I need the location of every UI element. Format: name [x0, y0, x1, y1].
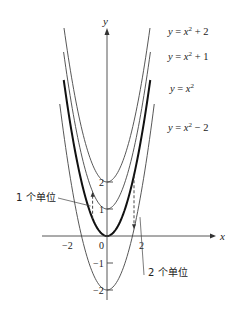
x-axis-arrow-icon — [210, 234, 216, 239]
series-label-3: y = x2 − 2 — [167, 121, 208, 133]
x-tick-label: 0 — [99, 240, 104, 251]
y-axis-label: y — [102, 15, 108, 27]
y-tick-label: −1 — [93, 258, 104, 269]
y-tick-label: 2 — [99, 177, 104, 188]
annotation-label: 2 个单位 — [148, 266, 188, 278]
x-tick-label: −2 — [62, 240, 73, 251]
series-labels: y = x2 + 2y = x2 + 1y = x2y = x2 − 2 — [167, 25, 208, 133]
y-axis-arrow-icon — [105, 28, 110, 35]
series-label-2: y = x2 — [169, 82, 195, 94]
parabola-shift-chart: xy −20221−1−2 y = x2 + 2y = x2 + 1y = x2… — [0, 0, 232, 318]
ticks: −20221−1−2 — [62, 177, 144, 296]
x-axis-label: x — [219, 230, 225, 242]
series-label-0: y = x2 + 2 — [167, 25, 208, 37]
series-label-1: y = x2 + 1 — [167, 50, 208, 62]
annotation-label: 1 个单位 — [16, 191, 56, 203]
y-tick-label: −2 — [93, 285, 104, 296]
y-tick-label: 1 — [99, 204, 104, 215]
arrowhead-icon — [132, 224, 136, 229]
